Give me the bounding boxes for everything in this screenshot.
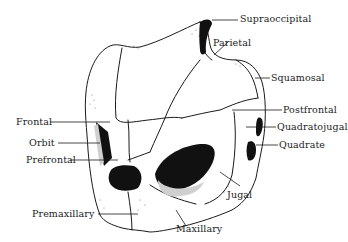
label-parietal: Parietal	[213, 38, 251, 48]
label-quadratojugal: Quadratojugal	[277, 122, 348, 132]
frontal-suture	[115, 48, 182, 122]
squamosal-edge	[236, 60, 258, 98]
label-squamosal: Squamosal	[271, 73, 325, 83]
label-prefrontal: Prefrontal	[26, 155, 76, 165]
label-quadrate: Quadrate	[279, 140, 325, 150]
prefrontal-suture	[128, 152, 150, 160]
quadrate-dark	[247, 141, 257, 160]
label-postfrontal: Postfrontal	[283, 105, 337, 115]
label-frontal: Frontal	[16, 117, 52, 127]
label-supraoccipital: Supraoccipital	[240, 14, 311, 24]
large-orbit-dark	[155, 144, 215, 190]
label-orbit: Orbit	[29, 138, 55, 148]
supraoccipital-shape	[199, 20, 212, 55]
postfrontal-suture	[182, 98, 258, 118]
label-jugal: Jugal	[227, 190, 252, 200]
label-maxillary: Maxillary	[176, 224, 222, 234]
nasal-opening-dark	[109, 165, 142, 191]
label-premaxillary: Premaxillary	[32, 209, 94, 219]
orbit-frontal-suture	[128, 120, 130, 162]
midline-suture	[150, 60, 200, 152]
skull-outline	[85, 22, 265, 232]
premaxillary-suture	[128, 192, 132, 230]
